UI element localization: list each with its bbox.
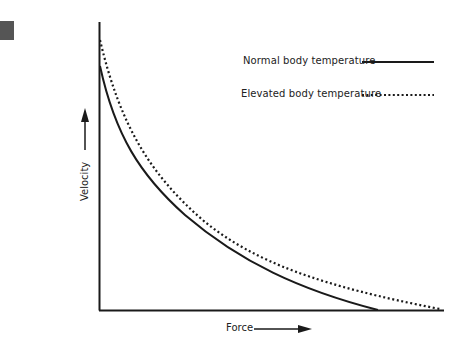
legend-normal-label: Normal body temperature (243, 55, 375, 66)
y-axis-label: Velocity (79, 162, 90, 201)
elevated-temperature-curve (100, 40, 440, 309)
legend-elevated-label: Elevated body temperature (241, 88, 381, 99)
normal-temperature-curve (100, 66, 378, 310)
force-arrow-head (298, 325, 312, 333)
x-axis-label: Force (226, 322, 253, 333)
chart-plot-area (0, 0, 476, 350)
velocity-arrow-head (81, 108, 89, 122)
